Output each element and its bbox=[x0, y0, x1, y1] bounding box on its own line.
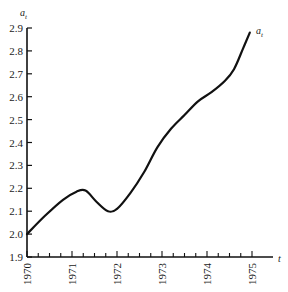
x-tick-label: 1972 bbox=[111, 263, 123, 285]
y-tick-label: 2.7 bbox=[9, 68, 23, 80]
y-axis-label: at bbox=[20, 7, 28, 21]
y-tick-label: 2.6 bbox=[9, 91, 23, 103]
x-axis-label: t bbox=[278, 253, 281, 264]
y-tick-label: 2.5 bbox=[9, 114, 23, 126]
line-chart: 1.92.02.12.22.32.42.52.62.72.82.9 197019… bbox=[0, 0, 288, 292]
y-tick-label: 2.1 bbox=[9, 205, 23, 217]
y-tick-label: 2.3 bbox=[9, 159, 23, 171]
x-axis-ticks: 197019711972197319741975 bbox=[21, 251, 258, 285]
x-tick-label: 1974 bbox=[201, 263, 213, 286]
y-tick-label: 2.4 bbox=[9, 137, 23, 149]
y-tick-label: 1.9 bbox=[9, 251, 23, 263]
x-tick-label: 1975 bbox=[246, 263, 258, 286]
y-tick-label: 2.2 bbox=[9, 182, 23, 194]
x-tick-label: 1971 bbox=[66, 263, 78, 285]
y-tick-label: 2.9 bbox=[9, 22, 23, 34]
series-a-t-line bbox=[27, 33, 250, 235]
x-tick-label: 1970 bbox=[21, 263, 33, 286]
y-tick-label: 2.8 bbox=[9, 45, 23, 57]
y-axis-ticks: 1.92.02.12.22.32.42.52.62.72.82.9 bbox=[9, 22, 32, 263]
x-tick-label: 1973 bbox=[156, 263, 168, 286]
y-tick-label: 2.0 bbox=[9, 228, 23, 240]
series-label: at bbox=[256, 25, 264, 39]
